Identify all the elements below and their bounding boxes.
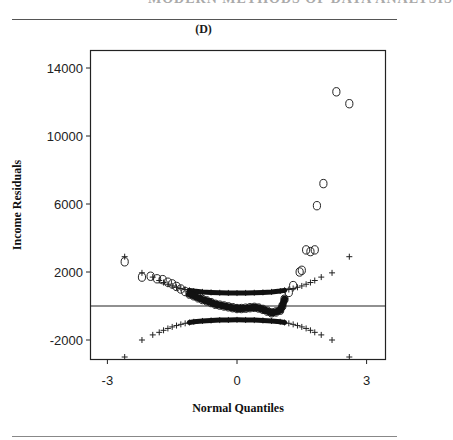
circle-marker	[298, 266, 305, 274]
y-tick-label: 6000	[54, 197, 83, 212]
x-axis-title: Normal Quantiles	[192, 401, 284, 415]
plus-marker	[329, 337, 335, 343]
circle-marker	[307, 247, 314, 255]
plus-marker	[318, 274, 324, 280]
plus-marker	[346, 254, 352, 260]
y-tick-label: 2000	[54, 265, 83, 280]
y-axis-title: Income Residuals	[10, 160, 24, 251]
plus-marker	[174, 323, 180, 329]
circle-marker	[333, 88, 340, 96]
y-tick-label: 14000	[47, 61, 83, 76]
plus-marker	[150, 332, 156, 338]
plus-marker	[290, 321, 296, 327]
circle-marker	[303, 246, 310, 254]
data-points	[121, 88, 353, 360]
plus-marker	[178, 321, 184, 327]
plot-frame	[91, 51, 386, 360]
plus-marker	[169, 324, 175, 330]
y-tick-label: -2000	[50, 333, 83, 348]
plus-marker	[294, 323, 300, 329]
y-tick-label: 10000	[47, 129, 83, 144]
circle-marker	[313, 202, 320, 210]
plus-marker	[122, 254, 128, 260]
plus-marker	[290, 285, 296, 291]
plus-marker	[139, 270, 145, 276]
plus-marker	[329, 270, 335, 276]
overplot-band	[189, 294, 284, 313]
plus-marker	[178, 285, 184, 291]
plus-marker	[299, 324, 305, 330]
bottom-rule	[12, 436, 397, 437]
y-axis: 140001000060002000-2000	[47, 61, 91, 348]
overplot-band	[189, 290, 284, 293]
x-axis: -303	[102, 360, 371, 389]
overplot-band	[189, 320, 284, 323]
x-tick-label: 0	[233, 373, 240, 388]
circle-marker	[311, 246, 318, 254]
circle-marker	[346, 100, 353, 108]
circle-marker	[320, 179, 327, 187]
x-tick-label: -3	[102, 373, 114, 388]
plus-marker	[318, 332, 324, 338]
x-tick-label: 3	[363, 373, 370, 388]
plus-marker	[139, 337, 145, 343]
